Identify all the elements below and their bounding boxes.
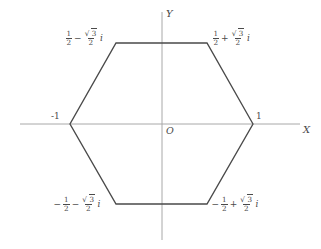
vertex-br-imag-fraction: √ 3 2: [239, 196, 254, 213]
vertex-br-sign: −: [210, 200, 221, 209]
vertex-tr-imag-fraction: √ 3 2: [230, 30, 245, 47]
vertex-label-top-left: 1 2 − √ 3 2 i: [62, 30, 103, 47]
sqrt-three-radical-tl: √ 3: [84, 30, 98, 38]
hexagon-plot-svg: [0, 0, 321, 249]
vertex-tl-imag-fraction: √ 3 2: [83, 30, 98, 47]
vertex-br-imaginary-unit: i: [254, 200, 258, 209]
vertex-bl-real-fraction: 1 2: [63, 196, 71, 213]
vertex-tr-real-fraction: 1 2: [212, 30, 220, 47]
vertex-bl-operator: −: [70, 200, 81, 209]
tick-label-negative-one: -1: [51, 112, 60, 121]
vertex-tl-operator: −: [73, 34, 84, 43]
radical-sign-icon: √: [232, 29, 237, 38]
radical-sign-icon: √: [85, 29, 90, 38]
vertex-br-real-fraction: 1 2: [221, 196, 229, 213]
y-axis-label: Y: [166, 9, 173, 19]
complex-plane-hexagon-figure: Y X O -1 1 1 2 − √ 3 2 i: [0, 0, 321, 249]
vertex-label-bottom-left: − 1 2 − √ 3 2 i: [52, 196, 100, 213]
vertex-tr-operator: +: [220, 34, 231, 43]
vertex-bl-imaginary-unit: i: [96, 200, 100, 209]
vertex-tl-real-fraction: 1 2: [65, 30, 73, 47]
vertex-label-top-right: 1 2 + √ 3 2 i: [209, 30, 250, 47]
sqrt-three-radical-br: √ 3: [239, 196, 253, 204]
vertex-tr-imaginary-unit: i: [246, 34, 250, 43]
sqrt-three-radical-bl: √ 3: [81, 196, 95, 204]
origin-label: O: [166, 126, 174, 136]
radical-sign-icon: √: [240, 195, 245, 204]
vertex-bl-imag-fraction: √ 3 2: [81, 196, 96, 213]
x-axis-label: X: [303, 125, 310, 135]
radical-sign-icon: √: [82, 195, 87, 204]
vertex-br-operator: +: [228, 200, 239, 209]
sqrt-three-radical-tr: √ 3: [231, 30, 245, 38]
vertex-tl-imaginary-unit: i: [99, 34, 103, 43]
vertex-label-bottom-right: − 1 2 + √ 3 2 i: [210, 196, 258, 213]
tick-label-one: 1: [256, 112, 262, 121]
vertex-bl-sign: −: [52, 200, 63, 209]
